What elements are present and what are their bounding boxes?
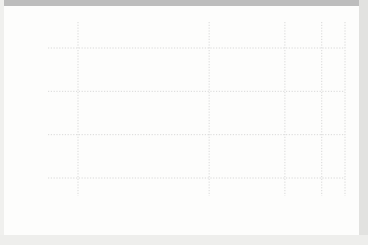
scan-edge-right [359,0,368,245]
figure-page [0,0,368,245]
chart-figure [4,6,359,235]
grid-lines [48,22,345,196]
scan-edge-bottom [0,235,368,245]
ionization-potential-scatter-chart [4,6,359,235]
